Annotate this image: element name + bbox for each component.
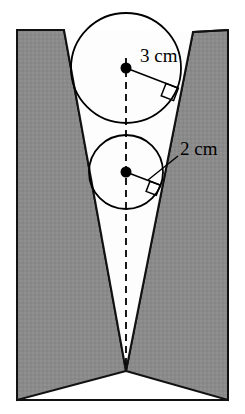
figure-root: 3 cm 2 cm bbox=[0, 0, 245, 414]
small-circle-center-dot bbox=[121, 167, 132, 178]
geometry-diagram: 3 cm 2 cm bbox=[0, 0, 245, 414]
large-circle-center-dot bbox=[121, 63, 132, 74]
large-circle-radius-label: 3 cm bbox=[140, 45, 178, 66]
small-circle-radius-label: 2 cm bbox=[180, 138, 218, 159]
